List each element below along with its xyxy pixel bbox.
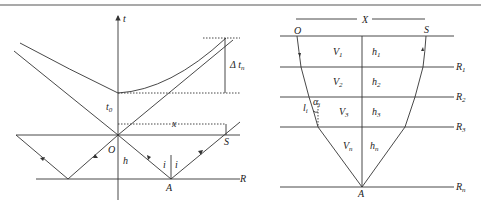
reflector-r2-label: R2 xyxy=(455,91,466,104)
incidence-angle-right: i xyxy=(175,159,178,170)
depth-label: h xyxy=(123,155,128,166)
left-panel xyxy=(14,16,240,200)
delta-t-label: Δ tn xyxy=(229,59,245,72)
path-length-label: li xyxy=(303,102,308,115)
velocity-v1: V1 xyxy=(333,46,343,59)
hyperbola-curve xyxy=(20,38,226,93)
reflector-label: R xyxy=(239,173,246,184)
arrow-icon xyxy=(198,150,203,155)
source-label-right: S xyxy=(424,24,429,35)
thickness-h2: h2 xyxy=(372,76,381,89)
origin-label-right: O xyxy=(294,25,301,36)
reflection-point-label: A xyxy=(165,182,173,193)
asymptote-left xyxy=(14,51,118,135)
velocity-v3: V3 xyxy=(339,106,349,119)
ray-reflected xyxy=(171,122,240,179)
thickness-h1: h1 xyxy=(372,46,381,59)
offset-label: X xyxy=(361,14,369,25)
ray-arrows-left xyxy=(40,150,203,161)
reflector-r3-label: R3 xyxy=(455,121,466,134)
arrow-icon xyxy=(421,47,424,51)
seismic-reflection-diagram: t Δ tn t0 x O S h i i A R X O S V1 h1 R1… xyxy=(0,0,481,209)
ray-arrows-right xyxy=(298,47,424,57)
velocity-vn: Vn xyxy=(343,140,353,153)
t-axis-label: t xyxy=(123,13,126,24)
incidence-angle-left: i xyxy=(163,159,166,170)
t0-label: t0 xyxy=(106,101,113,114)
right-panel xyxy=(280,19,454,187)
thickness-h3: h3 xyxy=(372,106,381,119)
angle-label: αi xyxy=(313,96,320,109)
velocity-v2: V2 xyxy=(333,76,343,89)
reflector-r1-label: R1 xyxy=(455,61,466,74)
thickness-hn: hn xyxy=(370,140,379,153)
reflector-rn-label: Rn xyxy=(455,181,466,194)
source-label: S xyxy=(224,136,229,147)
origin-label: O xyxy=(108,144,115,155)
reflection-point-label-right: A xyxy=(357,188,365,199)
x-label: x xyxy=(171,118,177,129)
ray-left-down xyxy=(68,135,118,179)
ray-left-up xyxy=(16,135,68,179)
